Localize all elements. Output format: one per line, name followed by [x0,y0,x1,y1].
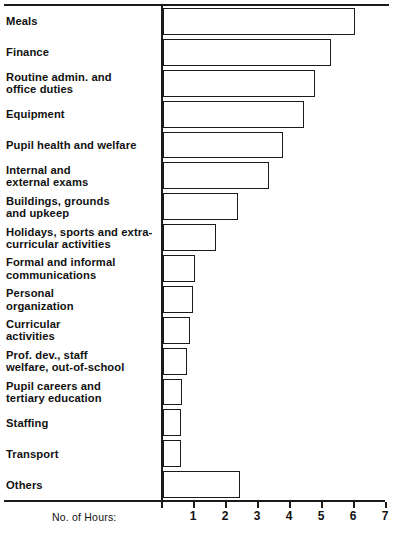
bar [163,379,182,406]
bar-track [163,284,393,315]
category-label: Others [6,478,158,490]
x-tick [289,502,291,508]
bar-track [163,68,393,99]
category-label: Prof. dev., staff welfare, out-of-school [6,349,158,374]
x-tick-label: 4 [279,509,299,523]
x-tick-label: 7 [375,509,393,523]
bar [163,101,304,128]
bar [163,224,216,251]
x-tick [353,502,355,508]
bar-track [163,191,393,222]
bar [163,317,190,344]
bar [163,39,331,66]
bar-row: Equipment [0,99,393,130]
bar-track [163,377,393,408]
bar-row: Finance [0,37,393,68]
bar [163,132,283,159]
bar-row: Pupil health and welfare [0,130,393,161]
x-tick [385,502,387,508]
bar-track [163,130,393,161]
bar-track [163,438,393,469]
bar [163,8,355,35]
bar-track [163,222,393,253]
bar [163,255,195,282]
bar-track [163,253,393,284]
x-tick-label: 2 [215,509,235,523]
x-tick [321,502,323,508]
bar-track [163,160,393,191]
category-label: Holidays, sports and extra- curricular a… [6,225,158,250]
bar-track [163,407,393,438]
plot-area: MealsFinanceRoutine admin. and office du… [0,6,393,501]
category-label: Internal and external exams [6,164,158,189]
bar [163,162,269,189]
bar-track [163,6,393,37]
category-label: Finance [6,46,158,58]
bar-row: Others [0,469,393,500]
bar-row: Buildings, grounds and upkeep [0,191,393,222]
x-tick-label: 6 [343,509,363,523]
category-label: Transport [6,448,158,460]
bar-row: Personal organization [0,284,393,315]
category-label: Formal and informal communications [6,256,158,281]
x-tick-label: 5 [311,509,331,523]
bar-track [163,315,393,346]
category-label: Buildings, grounds and upkeep [6,194,158,219]
category-label: Staffing [6,417,158,429]
bar-track [163,37,393,68]
bar-row: Prof. dev., staff welfare, out-of-school [0,346,393,377]
bar [163,348,187,375]
bar-track [163,469,393,500]
bar [163,409,181,436]
bar [163,471,240,498]
bar-row: Curricular activities [0,315,393,346]
category-label: Routine admin. and office duties [6,71,158,96]
horizontal-bar-chart: MealsFinanceRoutine admin. and office du… [0,0,393,538]
x-tick [257,502,259,508]
bar-track [163,99,393,130]
category-label: Curricular activities [6,318,158,343]
bar [163,70,315,97]
category-label: Equipment [6,108,158,120]
bar-row: Staffing [0,407,393,438]
bar-track [163,346,393,377]
bar-row: Pupil careers and tertiary education [0,377,393,408]
x-axis-caption: No. of Hours: [52,511,116,523]
category-label: Personal organization [6,287,158,312]
x-tick-label: 3 [247,509,267,523]
bar-row: Meals [0,6,393,37]
bar-row: Internal and external exams [0,160,393,191]
bar-row: Routine admin. and office duties [0,68,393,99]
x-tick [225,502,227,508]
bar-rows-container: MealsFinanceRoutine admin. and office du… [0,6,393,500]
category-label: Pupil health and welfare [6,139,158,151]
bar-row: Formal and informal communications [0,253,393,284]
x-tick [161,502,163,508]
bar [163,286,193,313]
x-tick [193,502,195,508]
category-label: Meals [6,15,158,27]
bar-row: Holidays, sports and extra- curricular a… [0,222,393,253]
bar [163,193,238,220]
x-tick-label: 1 [183,509,203,523]
bar-row: Transport [0,438,393,469]
bar [163,440,181,467]
category-label: Pupil careers and tertiary education [6,380,158,405]
